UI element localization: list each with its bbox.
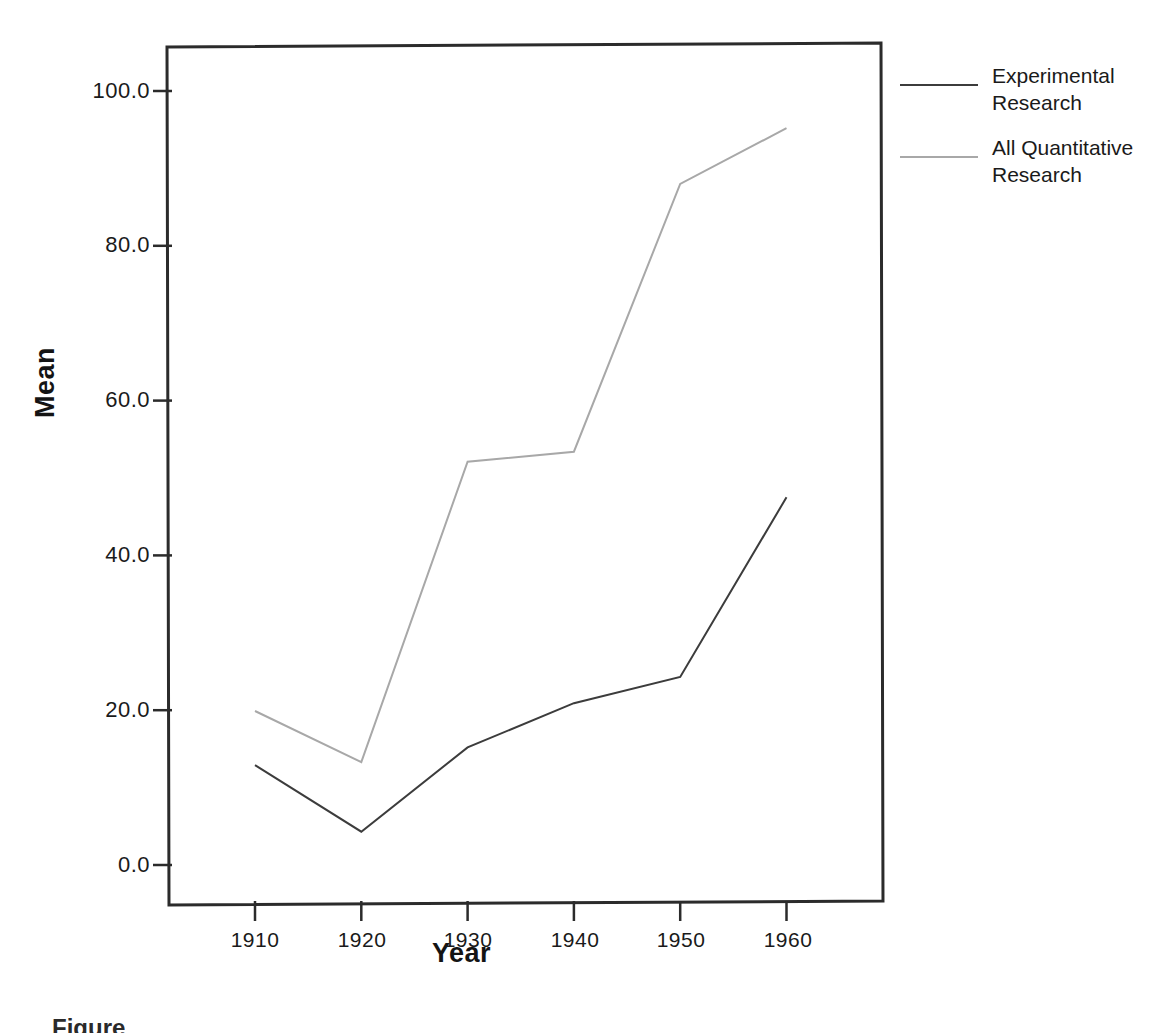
plot-area [0,0,1171,1033]
data-series-group [255,128,787,832]
figure-root: Mean Year 0.0 20.0 40.0 60.0 80.0 100.0 … [0,0,1171,1033]
figure-caption: Figure [52,1014,125,1033]
series-line-experimental-research [255,497,787,831]
series-line-all-quantitative-research [255,128,787,762]
axis-frame [167,43,883,905]
